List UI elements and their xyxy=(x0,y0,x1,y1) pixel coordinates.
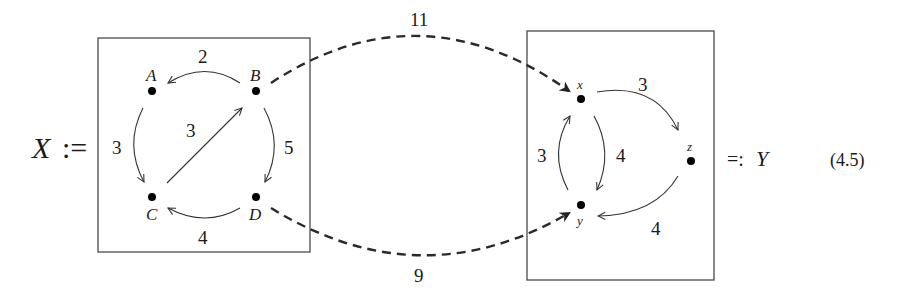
mapping-edge-D-y xyxy=(271,208,569,255)
mapping-edge-B-x xyxy=(271,36,569,91)
edge-B-A xyxy=(168,72,240,84)
edge-y-x xyxy=(558,116,570,190)
edge-weight-z-y: 4 xyxy=(651,218,661,239)
node-B: B xyxy=(250,66,261,95)
graph-x-box xyxy=(98,38,310,252)
equation-number: (4.5) xyxy=(830,150,865,171)
node-z: z xyxy=(686,139,695,165)
edge-weight-x-z: 3 xyxy=(638,74,648,95)
edge-A-C xyxy=(134,108,144,182)
edge-z-y xyxy=(598,176,678,216)
edge-weight-A-C: 3 xyxy=(112,137,122,158)
edge-weight-y-x: 3 xyxy=(537,145,547,166)
graph-x-def-symbol: := xyxy=(62,131,87,164)
mapping-weight-D-y: 9 xyxy=(414,265,424,286)
node-D: D xyxy=(248,193,262,224)
edge-B-D xyxy=(264,108,274,182)
node-x: x xyxy=(576,77,585,103)
node-label-B: B xyxy=(250,66,261,85)
graph-y-name: Y xyxy=(756,146,771,171)
edge-x-z xyxy=(597,90,678,130)
edge-weight-B-D: 5 xyxy=(284,137,294,158)
edge-weight-x-y: 4 xyxy=(616,145,626,166)
node-label-y: y xyxy=(575,213,583,228)
node-y: y xyxy=(575,201,585,228)
edge-x-y xyxy=(594,116,605,190)
edge-D-C xyxy=(168,208,240,218)
edge-weight-C-B: 3 xyxy=(186,120,196,141)
graph-morphism-diagram: X := A B C D 2 3 3 5 4 x y z xyxy=(0,0,902,298)
node-label-x: x xyxy=(576,77,583,92)
edge-C-B xyxy=(167,108,242,183)
edge-weight-B-A: 2 xyxy=(198,46,208,67)
mapping-weight-B-x: 11 xyxy=(410,9,428,30)
node-label-D: D xyxy=(248,205,262,224)
edge-weight-D-C: 4 xyxy=(198,227,208,248)
node-label-z: z xyxy=(686,139,692,154)
node-C: C xyxy=(146,193,158,224)
node-label-A: A xyxy=(145,66,157,85)
graph-x-name: X xyxy=(31,131,52,164)
graph-y-def-symbol: =: xyxy=(727,148,744,170)
node-A: A xyxy=(145,66,157,95)
node-label-C: C xyxy=(146,205,158,224)
